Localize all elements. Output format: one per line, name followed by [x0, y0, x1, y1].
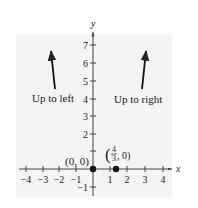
y-tick-label: 4 — [83, 94, 88, 105]
paren-left: ( — [105, 145, 111, 164]
point-four-thirds — [113, 166, 119, 172]
y-tick-label: 7 — [83, 40, 88, 51]
x-tick-label: 1 — [108, 174, 113, 185]
x-tick-label: 2 — [125, 174, 130, 185]
fraction-denominator: 3 — [112, 154, 116, 163]
point-label-origin: (0, 0) — [65, 155, 89, 168]
y-tick-label: −1 — [77, 182, 88, 193]
y-axis-label: y — [90, 18, 96, 29]
y-tick-label: 5 — [83, 76, 88, 87]
x-tick-label: −2 — [54, 174, 65, 185]
point-origin — [90, 166, 96, 172]
x-tick-label: −3 — [38, 174, 49, 185]
y-tick-label: 6 — [83, 58, 88, 69]
x-tick-label: −4 — [21, 174, 32, 185]
x-axis-label: x — [175, 163, 181, 174]
fraction-numerator: 4 — [112, 145, 116, 154]
label-rest: , 0) — [117, 150, 130, 162]
x-tick-label: 3 — [143, 174, 148, 185]
chart: x y −4 −3 −2 −1 1 2 3 4 −1 2 3 4 5 — [0, 0, 198, 208]
annotation-up-to-left: Up to left — [32, 92, 74, 104]
x-tick-label: 4 — [161, 174, 166, 185]
annotation-up-to-right: Up to right — [114, 93, 162, 105]
y-tick-label: 2 — [83, 129, 88, 140]
y-tick-label: 3 — [83, 111, 88, 122]
